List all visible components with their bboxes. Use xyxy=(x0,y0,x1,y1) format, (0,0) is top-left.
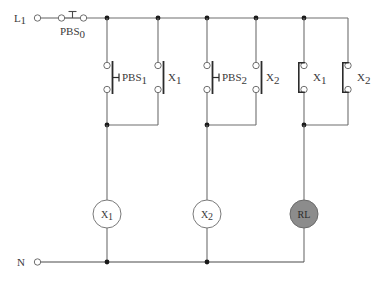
node-bottom-2 xyxy=(205,260,210,265)
pbs0-left-terminal xyxy=(58,15,64,21)
pbs0-label: PBS0 xyxy=(60,25,86,40)
x1-contact-bottom-terminal xyxy=(155,86,161,92)
rl-lamp-label: RL xyxy=(298,209,311,220)
branch-1-group xyxy=(93,18,164,262)
pbs2-bottom-terminal xyxy=(204,86,210,92)
circuit-diagram-canvas: L1 N PBS0 PBS1 X1 PBS2 X2 X1 X2 X1 X2 RL xyxy=(0,0,387,286)
line-terminal-circle xyxy=(34,15,40,21)
pbs1-label: PBS1 xyxy=(122,71,147,86)
ladder-schematic: L1 N PBS0 PBS1 X1 PBS2 X2 X1 X2 X1 X2 RL xyxy=(0,0,387,286)
top-rail-group xyxy=(34,12,348,22)
x2-contact-top-terminal xyxy=(253,62,259,68)
pbs0-right-terminal xyxy=(80,15,86,21)
pbs1-top-terminal xyxy=(104,62,110,68)
labels-group: L1 N PBS0 PBS1 X1 PBS2 X2 X1 X2 X1 X2 RL xyxy=(14,12,371,268)
neutral-terminal-circle xyxy=(34,259,40,265)
pbs1-bottom-terminal xyxy=(104,86,110,92)
x1-contact-top-terminal xyxy=(155,62,161,68)
pbs2-top-terminal xyxy=(204,62,210,68)
x1-contact-label: X1 xyxy=(168,71,181,86)
branch-2-group xyxy=(193,18,262,262)
line-terminal-label: L1 xyxy=(14,12,26,27)
node-bottom-1 xyxy=(105,260,110,265)
x1-nc-label: X1 xyxy=(313,71,326,86)
pbs2-label: PBS2 xyxy=(222,71,247,86)
x2-nc-label: X2 xyxy=(357,71,370,86)
x2-contact-bottom-terminal xyxy=(253,86,259,92)
branch-3-group xyxy=(290,18,351,262)
neutral-terminal-label: N xyxy=(17,256,25,268)
x2-contact-label: X2 xyxy=(266,71,279,86)
bottom-rail-group xyxy=(34,259,304,265)
